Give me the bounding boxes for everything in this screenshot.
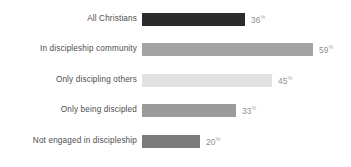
percent-sign: % [261,14,266,20]
bar-value-number: 20 [206,137,216,147]
bar-in-discipleship-community[interactable] [142,43,313,56]
bar-value-number: 36 [251,15,261,25]
bar-track: 33% [142,102,256,118]
bar-track: 45% [142,72,292,88]
bar-value-label: 45% [278,72,292,88]
bar-category-label: Not engaged in discipleship [0,133,137,149]
percent-sign: % [329,44,334,50]
percent-sign: % [252,105,257,111]
bar-value-number: 59 [319,45,329,55]
chart-row: In discipleship community 59% [0,41,351,57]
bar-value-label: 33% [242,102,256,118]
chart-row: Only discipling others 45% [0,72,351,88]
chart-row: Not engaged in discipleship 20% [0,133,351,149]
bar-track: 36% [142,11,265,27]
bar-all-christians[interactable] [142,13,245,26]
bar-not-engaged-in-discipleship[interactable] [142,135,200,148]
bar-track: 20% [142,133,220,149]
bar-category-label: Only being discipled [0,102,137,118]
bar-track: 59% [142,41,333,57]
percent-sign: % [216,136,221,142]
bar-only-discipling-others[interactable] [142,74,272,87]
percent-sign: % [288,75,293,81]
chart-row: All Christians 36% [0,11,351,27]
bar-value-label: 20% [206,133,220,149]
horizontal-bar-chart: All Christians 36% In discipleship commu… [0,0,351,167]
chart-row: Only being discipled 33% [0,102,351,118]
bar-value-label: 59% [319,41,333,57]
bar-category-label: All Christians [0,11,137,27]
bar-category-label: Only discipling others [0,72,137,88]
bar-category-label: In discipleship community [0,41,137,57]
bar-value-label: 36% [251,11,265,27]
bar-value-number: 33 [242,106,252,116]
bar-value-number: 45 [278,76,288,86]
bar-only-being-discipled[interactable] [142,104,236,117]
